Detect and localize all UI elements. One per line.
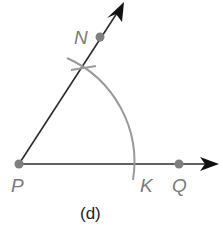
label-n: N	[74, 27, 88, 48]
label-p: P	[11, 175, 24, 196]
figure-caption: (d)	[80, 204, 101, 223]
construction-diagram: N P K Q (d)	[0, 0, 223, 233]
arrowhead-n-icon	[107, 2, 124, 22]
label-q: Q	[172, 175, 187, 196]
point-n	[96, 33, 105, 42]
point-q	[175, 160, 184, 169]
compass-arc	[67, 58, 134, 180]
label-k: K	[140, 175, 154, 196]
point-p	[15, 160, 24, 169]
